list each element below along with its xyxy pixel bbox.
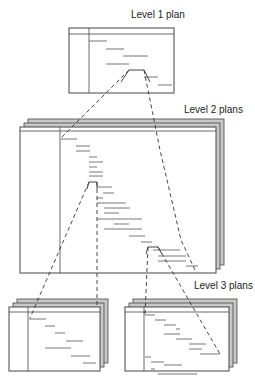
- front-sheet: [69, 28, 174, 93]
- level1-label: Level 1 plan: [131, 9, 185, 20]
- front-sheet: [9, 307, 100, 371]
- level1-sheet-stack: [69, 28, 174, 93]
- front-sheet: [20, 127, 216, 273]
- level3-label: Level 3 plans: [194, 280, 253, 291]
- level3-left-sheet-stack: [9, 299, 108, 371]
- level3-right-sheet-stack: [125, 299, 237, 371]
- level2-sheet-stack: [20, 119, 224, 273]
- level2-label: Level 2 plans: [184, 104, 243, 115]
- planning-levels-diagram: [0, 0, 255, 384]
